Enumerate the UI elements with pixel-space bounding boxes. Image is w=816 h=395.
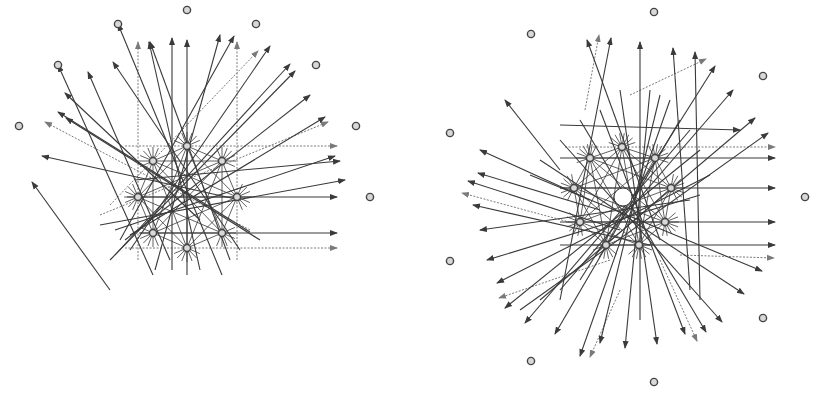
inner-node bbox=[149, 229, 156, 236]
outer-node bbox=[252, 20, 259, 27]
outer-node bbox=[15, 122, 22, 129]
dashed-arrow bbox=[585, 35, 599, 110]
right-diagram bbox=[446, 8, 808, 385]
inner-node bbox=[618, 143, 625, 150]
inner-node bbox=[661, 218, 668, 225]
outer-node bbox=[54, 61, 61, 68]
outer-node bbox=[527, 30, 534, 37]
arrow bbox=[480, 200, 690, 230]
outer-node bbox=[527, 357, 534, 364]
dashed-arrow bbox=[660, 260, 697, 341]
diagram-canvas bbox=[0, 0, 816, 395]
outer-node bbox=[114, 20, 121, 27]
arrow bbox=[32, 182, 110, 290]
inner-node bbox=[651, 154, 658, 161]
dashed-arrow bbox=[499, 260, 610, 298]
outer-node bbox=[650, 8, 657, 15]
outer-node bbox=[446, 129, 453, 136]
inner-node bbox=[218, 229, 225, 236]
inner-node bbox=[570, 184, 577, 191]
outer-node bbox=[650, 378, 657, 385]
dashed-arrow bbox=[630, 59, 706, 95]
arrow bbox=[497, 175, 710, 283]
arrow bbox=[505, 150, 700, 308]
inner-node bbox=[667, 184, 674, 191]
outer-node bbox=[446, 257, 453, 264]
outer-node bbox=[801, 193, 808, 200]
inner-node bbox=[183, 244, 190, 251]
arrow bbox=[65, 93, 200, 220]
outer-node bbox=[759, 72, 766, 79]
inner-node bbox=[134, 193, 141, 200]
ray-line bbox=[577, 142, 635, 162]
inner-node bbox=[635, 241, 642, 248]
outer-node bbox=[352, 122, 359, 129]
inner-node bbox=[586, 154, 593, 161]
arrow bbox=[505, 100, 560, 170]
inner-node bbox=[576, 218, 583, 225]
outer-node bbox=[759, 314, 766, 321]
ray-line bbox=[609, 143, 669, 163]
outer-node bbox=[183, 6, 190, 13]
outer-node bbox=[312, 61, 319, 68]
inner-node bbox=[602, 241, 609, 248]
arrow bbox=[673, 48, 690, 290]
inner-node bbox=[149, 157, 156, 164]
left-diagram bbox=[15, 6, 373, 290]
arrow bbox=[560, 125, 740, 130]
inner-node bbox=[218, 157, 225, 164]
inner-node bbox=[233, 193, 240, 200]
node-arrow-diagram bbox=[0, 0, 816, 395]
outer-node bbox=[366, 193, 373, 200]
inner-node bbox=[183, 142, 190, 149]
center-hole bbox=[614, 188, 632, 206]
